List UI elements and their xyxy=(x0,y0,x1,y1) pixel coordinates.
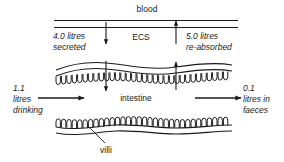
lower-intestine-wall xyxy=(56,117,232,135)
drinking-value-label: 1.1 xyxy=(13,83,25,94)
upper-intestine-wall xyxy=(56,62,232,84)
reabsorbed-value-label: 5.0 litres xyxy=(186,31,218,42)
lower-wall-outer-membrane xyxy=(56,131,232,135)
faeces-location-label: faeces xyxy=(243,105,268,116)
secreted-value-label: 4.0 litres xyxy=(53,31,85,42)
secreted-action-label: secreted xyxy=(53,42,86,53)
diagram-canvas: blood ECS 4.0 litres secreted 5.0 litres… xyxy=(0,0,284,162)
intestine-label: intestine xyxy=(106,93,166,104)
villi-leader-line xyxy=(88,126,105,143)
faeces-unit-label: litres in xyxy=(243,94,270,105)
reabsorbed-action-label: re-absorbed xyxy=(186,42,232,53)
drinking-action-label: drinking xyxy=(13,105,43,116)
ecs-label: ECS xyxy=(120,32,162,43)
villi-label: villi xyxy=(88,145,124,156)
drinking-unit-label: litres xyxy=(13,94,31,105)
blood-label: blood xyxy=(118,4,176,15)
blood-vessel xyxy=(54,21,238,28)
diagram-graphics xyxy=(0,0,284,162)
faeces-value-label: 0.1 xyxy=(243,83,255,94)
